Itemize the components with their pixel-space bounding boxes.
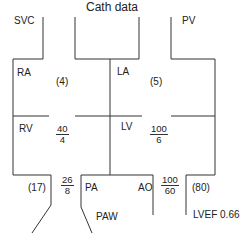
lv-diastolic: 6 — [150, 135, 168, 145]
diagram-title: Cath data — [86, 2, 138, 13]
label-svc: SVC — [14, 15, 35, 26]
cath-data-diagram: Cath data SVC PV RA (4) LA (5) RV 40 4 L… — [0, 0, 244, 242]
label-rv: RV — [19, 123, 33, 134]
label-paw: PAW — [96, 211, 118, 222]
la-mean-pressure: (5) — [150, 76, 162, 87]
label-pv: PV — [182, 15, 195, 26]
label-la: LA — [117, 66, 129, 77]
rv-pressure: 40 4 — [56, 124, 69, 145]
rv-diastolic: 4 — [56, 135, 69, 145]
lvef-value: LVEF 0.66 — [193, 209, 240, 220]
label-pa: PA — [85, 182, 98, 193]
label-lv: LV — [121, 121, 133, 132]
pa-mean-pressure: (17) — [28, 182, 46, 193]
label-ra: RA — [17, 67, 31, 78]
label-ao: AO — [138, 182, 152, 193]
ao-pressure: 100 60 — [161, 175, 179, 196]
ao-mean-pressure: (80) — [192, 182, 210, 193]
pa-diastolic: 8 — [61, 186, 74, 196]
lv-pressure: 100 6 — [150, 124, 168, 145]
pa-pressure: 26 8 — [61, 175, 74, 196]
ra-mean-pressure: (4) — [56, 76, 68, 87]
ao-diastolic: 60 — [161, 186, 179, 196]
